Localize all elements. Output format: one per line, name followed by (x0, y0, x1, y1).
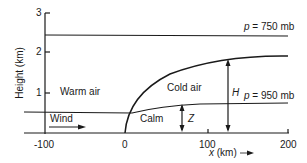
isobar-750 (45, 35, 288, 36)
y-tick-1: 1 (36, 88, 42, 98)
label-calm: Calm (140, 114, 163, 124)
label-warm-air: Warm air (60, 87, 100, 97)
y-axis-label: Height (km) (15, 45, 25, 101)
label-wind: Wind (50, 114, 73, 124)
y-tick-2: 2 (36, 47, 42, 57)
x-tick-neg100: -100 (34, 140, 54, 150)
label-cold-air: Cold air (167, 83, 201, 93)
label-isobar-950: p = 950 mb (244, 91, 294, 101)
x-tick-200: 200 (280, 140, 297, 150)
label-h-dimension: H (232, 88, 239, 98)
isobar-950 (24, 103, 288, 113)
y-tick-3: 3 (36, 8, 42, 18)
x-axis-label: x (km) (209, 148, 237, 158)
x-tick-0: 0 (122, 140, 128, 150)
label-isobar-750: p = 750 mb (244, 22, 294, 32)
label-z-dimension: Z (188, 114, 194, 124)
